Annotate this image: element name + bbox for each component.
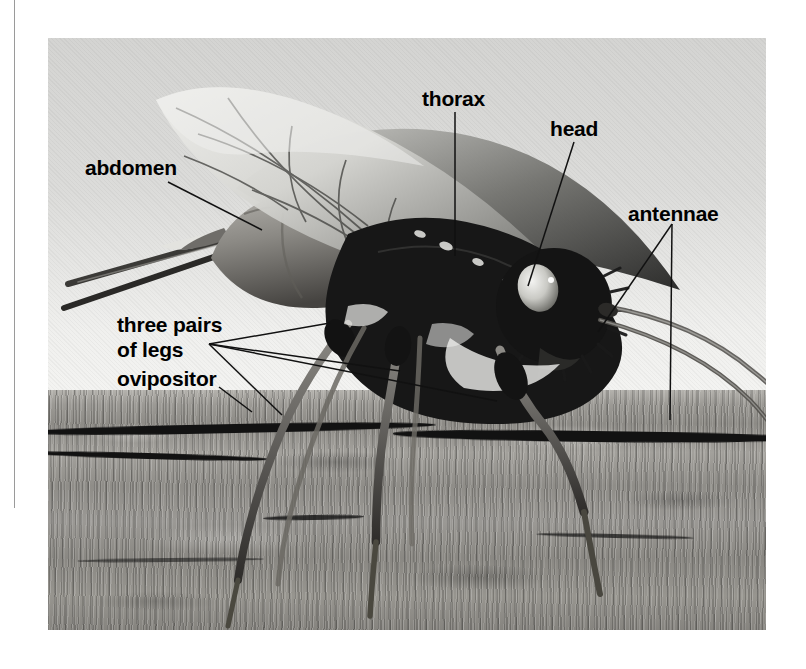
label-abdomen: abdomen [85,155,177,180]
page-margin-rule [14,0,15,508]
label-thorax: thorax [422,86,485,111]
label-head: head [550,116,598,141]
label-ovipositor: ovipositor [117,366,217,391]
label-legs-line-1: three pairs [117,313,222,336]
figure-root: abdomen thorax head antennae three pairs… [0,0,806,669]
label-antennae: antennae [628,201,719,226]
label-three-pairs-of-legs: three pairs of legs [117,312,277,362]
label-legs-line-2: of legs [117,338,183,361]
